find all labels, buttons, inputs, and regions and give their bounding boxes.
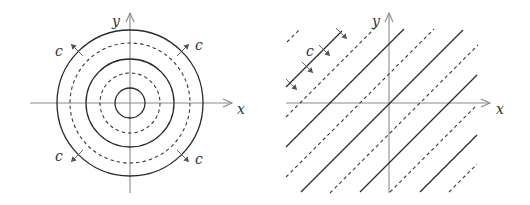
arrow-se-icon bbox=[177, 150, 189, 162]
level-line-solid bbox=[301, 30, 463, 192]
x-axis-label: x bbox=[237, 101, 245, 117]
arrow-nw-icon bbox=[71, 44, 83, 56]
flow-label: c bbox=[306, 43, 314, 59]
flow-ticks bbox=[286, 28, 347, 90]
arrow-sw-icon bbox=[71, 150, 83, 162]
flow-label-ne: c bbox=[195, 37, 203, 53]
flow-label-se: c bbox=[195, 151, 203, 167]
y-axis-label: y bbox=[371, 13, 381, 29]
flow-label-sw: c bbox=[55, 148, 63, 164]
level-line-dashed bbox=[330, 45, 478, 193]
level-line-dashed bbox=[449, 164, 477, 192]
level-line-solid bbox=[360, 75, 477, 192]
tick-arrow-icon bbox=[302, 62, 313, 73]
right-panel: x y bbox=[286, 13, 504, 193]
level-lines bbox=[286, 27, 478, 193]
y-axis-label: y bbox=[111, 13, 121, 29]
level-line-solid bbox=[286, 29, 404, 147]
level-line-solid bbox=[420, 135, 477, 192]
level-line-dashed bbox=[287, 29, 300, 42]
left-panel: x y c c c c bbox=[30, 13, 245, 193]
tick-arrow-icon bbox=[336, 28, 347, 39]
level-line-solid bbox=[286, 31, 342, 87]
x-axis-label: x bbox=[496, 101, 504, 117]
flow-label-nw: c bbox=[55, 43, 63, 59]
arrow-ne-icon bbox=[177, 44, 189, 56]
level-set-diagram: x y c c c c x y bbox=[0, 0, 530, 205]
tick-arrow-icon bbox=[319, 45, 330, 56]
